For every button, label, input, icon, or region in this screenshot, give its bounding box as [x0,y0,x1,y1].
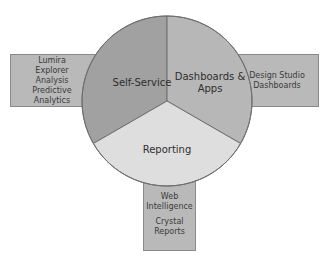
label-dashboards-line2: Apps [170,83,250,95]
bi-wheel [0,0,328,260]
faint-caption-fragment [12,252,318,258]
label-dashboards-line1: Dashboards & [170,71,250,83]
label-dashboards-apps: Dashboards & Apps [170,71,250,95]
label-self-service: Self-Service [112,77,172,89]
label-reporting: Reporting [135,144,199,156]
